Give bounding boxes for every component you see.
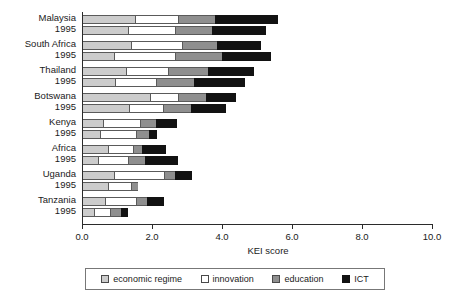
- bar-segment-economic-regime: [82, 171, 114, 180]
- stacked-bar: [82, 145, 166, 154]
- stacked-bar: [82, 119, 177, 128]
- group-label-botswana: Botswana1995: [34, 91, 76, 112]
- bar-segment-ict: [206, 93, 236, 102]
- bar-segment-economic-regime: [82, 78, 115, 87]
- x-axis-tick: [362, 224, 363, 229]
- bar-segment-ict: [145, 156, 178, 165]
- group-label-name: Africa: [52, 143, 76, 154]
- group-label-name: Kenya: [49, 117, 76, 128]
- stacked-bar: [82, 171, 192, 180]
- bar-segment-ict: [215, 15, 278, 24]
- group-label-year: 1995: [38, 206, 76, 217]
- bar-segment-innovation: [128, 26, 175, 35]
- x-axis-tick: [292, 224, 293, 229]
- stacked-bar: [82, 41, 261, 50]
- bar-segment-innovation: [100, 130, 137, 139]
- group-label-year: 1995: [40, 76, 76, 87]
- group-label-name: Botswana: [34, 91, 76, 102]
- bar-segment-education: [178, 15, 215, 24]
- bar-segment-economic-regime: [82, 130, 100, 139]
- bar-segment-economic-regime: [82, 15, 135, 24]
- bar-segment-economic-regime: [82, 119, 103, 128]
- stacked-bar: [82, 15, 278, 24]
- legend-swatch-innovation-icon: [201, 275, 209, 283]
- x-axis-tick: [82, 224, 83, 229]
- x-axis-tick-label: 2.0: [145, 231, 158, 242]
- x-axis-tick-label: 4.0: [215, 231, 228, 242]
- bar-segment-education: [110, 208, 121, 217]
- group-label-malaysia: Malaysia1995: [39, 13, 77, 34]
- x-axis-tick-label: 10.0: [423, 231, 442, 242]
- legend-label: education: [284, 274, 323, 284]
- group-label-name: Malaysia: [39, 13, 77, 24]
- bar-segment-education: [182, 41, 217, 50]
- bar-segment-innovation: [126, 67, 168, 76]
- bar-segment-ict: [194, 78, 245, 87]
- bar-segment-innovation: [114, 52, 175, 61]
- bar-segment-ict: [208, 67, 254, 76]
- bar-segment-education: [175, 52, 222, 61]
- x-axis-title-text: KEI score: [93, 245, 443, 256]
- stacked-bar: [82, 156, 178, 165]
- bar-segment-innovation: [135, 15, 179, 24]
- legend-label: ICT: [354, 274, 369, 284]
- group-label-name: South Africa: [25, 39, 76, 50]
- stacked-bar: [82, 52, 271, 61]
- group-label-name: Tanzania: [38, 195, 76, 206]
- bar-segment-innovation: [150, 93, 178, 102]
- bar-segment-innovation: [108, 182, 131, 191]
- bar-segment-ict: [142, 145, 167, 154]
- legend-item-economic-regime: economic regime: [101, 274, 182, 284]
- bar-segment-innovation: [98, 156, 128, 165]
- group-label-kenya: Kenya1995: [49, 117, 76, 138]
- bar-segment-economic-regime: [82, 104, 129, 113]
- bar-segment-innovation: [131, 41, 182, 50]
- group-label-south-africa: South Africa1995: [25, 39, 76, 60]
- bar-segment-innovation: [94, 208, 110, 217]
- bar-segment-education: [156, 78, 195, 87]
- group-label-africa: Africa1995: [52, 143, 76, 164]
- bar-segment-innovation: [115, 78, 155, 87]
- bar-segment-education: [140, 119, 156, 128]
- legend-item-education: education: [272, 274, 323, 284]
- bar-segment-education: [136, 197, 147, 206]
- chart-legend: economic regimeinnovationeducationICT: [85, 268, 385, 290]
- group-label-year: 1995: [43, 180, 76, 191]
- x-axis-tick: [222, 224, 223, 229]
- bar-segment-ict: [212, 26, 266, 35]
- bar-segment-innovation: [114, 171, 165, 180]
- bar-segment-economic-regime: [82, 182, 108, 191]
- legend-item-innovation: innovation: [201, 274, 254, 284]
- y-axis-line: [82, 12, 83, 224]
- stacked-bar: [82, 182, 138, 191]
- bar-segment-economic-regime: [82, 208, 94, 217]
- group-label-year: 1995: [34, 102, 76, 113]
- x-axis-line: [82, 224, 432, 225]
- legend-swatch-education-icon: [272, 275, 280, 283]
- bar-segment-education: [128, 156, 146, 165]
- group-label-thailand: Thailand1995: [40, 65, 76, 86]
- bar-segment-economic-regime: [82, 197, 105, 206]
- bar-segment-education: [168, 67, 208, 76]
- bar-segment-education: [175, 26, 212, 35]
- legend-swatch-economic-regime-icon: [101, 275, 109, 283]
- bar-segment-innovation: [105, 197, 137, 206]
- legend-label: economic regime: [113, 274, 182, 284]
- bar-segment-economic-regime: [82, 41, 131, 50]
- bar-segment-education: [164, 171, 175, 180]
- stacked-bar: [82, 67, 254, 76]
- bar-segment-education: [178, 93, 206, 102]
- bar-segment-education: [131, 182, 138, 191]
- bar-segment-ict: [156, 119, 177, 128]
- bar-segment-economic-regime: [82, 52, 114, 61]
- bar-segment-ict: [175, 171, 193, 180]
- bar-segment-ict: [147, 197, 165, 206]
- x-axis-tick: [152, 224, 153, 229]
- group-label-name: Thailand: [40, 65, 76, 76]
- bar-segment-ict: [217, 41, 261, 50]
- stacked-bar: [82, 130, 157, 139]
- legend-label: innovation: [213, 274, 254, 284]
- bar-segment-ict: [222, 52, 271, 61]
- x-axis-tick-label: 0.0: [75, 231, 88, 242]
- bar-segment-innovation: [103, 119, 140, 128]
